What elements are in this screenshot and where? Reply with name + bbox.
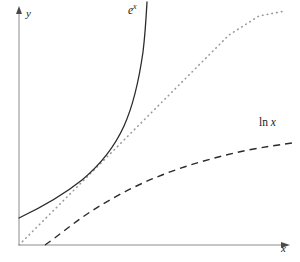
x-axis-label: x (281, 243, 286, 254)
axes-group (16, 6, 290, 248)
curve-exponential (19, 2, 147, 218)
curve-identity-line (19, 11, 285, 245)
y-axis-label: y (26, 8, 31, 19)
chart-plot-area (0, 0, 300, 262)
logarithm-function-text: ln (259, 116, 271, 128)
figure-canvas: y x ex ln x (0, 0, 300, 262)
curve-natural-log (45, 143, 292, 245)
exponential-exponent-text: x (133, 2, 137, 11)
exponential-curve-label: ex (128, 3, 137, 16)
logarithm-variable-text: x (271, 116, 276, 128)
logarithm-curve-label: ln x (259, 117, 276, 129)
y-axis-arrow-icon (16, 6, 22, 14)
series-group (19, 2, 292, 245)
